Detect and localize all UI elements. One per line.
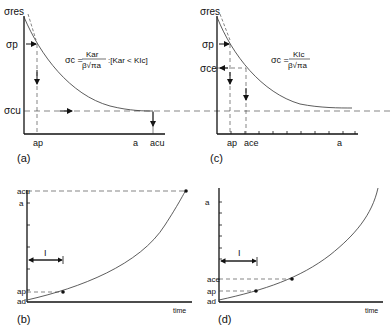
panel-label-b: (b): [17, 313, 30, 325]
y-axis-label: a: [205, 198, 210, 207]
y-tick-acu: acu: [17, 187, 30, 196]
y-axis-label: σres: [200, 6, 220, 17]
equation-a: σc = Kar β√πa :[Kar < KIc]: [65, 50, 148, 70]
y-tick-ap: ap: [17, 287, 26, 296]
crack-growth-curve: [27, 190, 186, 300]
x-tick-ace: ace: [244, 138, 259, 148]
x-tick-ap: ap: [33, 138, 43, 148]
y-tick-sigma-p: σp: [6, 39, 18, 50]
x-tick-a: a: [133, 138, 138, 148]
svg-text:σc =: σc =: [271, 55, 289, 65]
svg-text:β√πa: β√πa: [288, 61, 308, 70]
y-tick-ad: ad: [207, 297, 216, 306]
panel-d: a I ace ap ad time (d): [205, 188, 383, 325]
svg-text:Kar: Kar: [86, 50, 99, 59]
y-tick-sigma-ce: σce: [200, 63, 217, 74]
interval-label: I: [44, 248, 47, 258]
panel-c: σres σp σce ap ace a σc = KIc β√πa (c): [200, 6, 358, 164]
y-tick-sigma-p: σp: [202, 39, 214, 50]
panel-label-a: (a): [17, 152, 30, 164]
svg-text::[Kar < KIc]: :[Kar < KIc]: [108, 56, 148, 65]
panel-label-c: (c): [210, 152, 223, 164]
y-tick-ace: ace: [207, 275, 220, 284]
svg-text:σc =: σc =: [65, 55, 83, 65]
svg-text:KIc: KIc: [293, 50, 305, 59]
x-tick-ap: ap: [227, 138, 237, 148]
svg-text:β√πa: β√πa: [82, 61, 102, 70]
diagram-canvas: σres σp σcu ap a acu σc = Kar β√πa :[Kar…: [0, 0, 391, 331]
x-axis-label: time: [365, 307, 378, 314]
y-axis-label: σres: [4, 6, 24, 17]
panel-b: acu a I ap ad time (b): [17, 187, 192, 325]
x-tick-a: a: [337, 138, 342, 148]
panel-a: σres σp σcu ap a acu σc = Kar β√πa :[Kar…: [4, 6, 391, 164]
equation-c: σc = KIc β√πa: [271, 50, 310, 70]
y-axis-label: a: [19, 199, 24, 208]
crack-growth-curve: [219, 188, 378, 300]
interval-label: I: [238, 248, 241, 258]
y-tick-ad: ad: [17, 297, 26, 306]
y-tick-ap: ap: [207, 287, 216, 296]
x-tick-acu: acu: [150, 138, 165, 148]
y-tick-sigma-cu: σcu: [4, 105, 21, 116]
panel-label-d: (d): [218, 313, 231, 325]
x-axis-label: time: [173, 307, 186, 314]
